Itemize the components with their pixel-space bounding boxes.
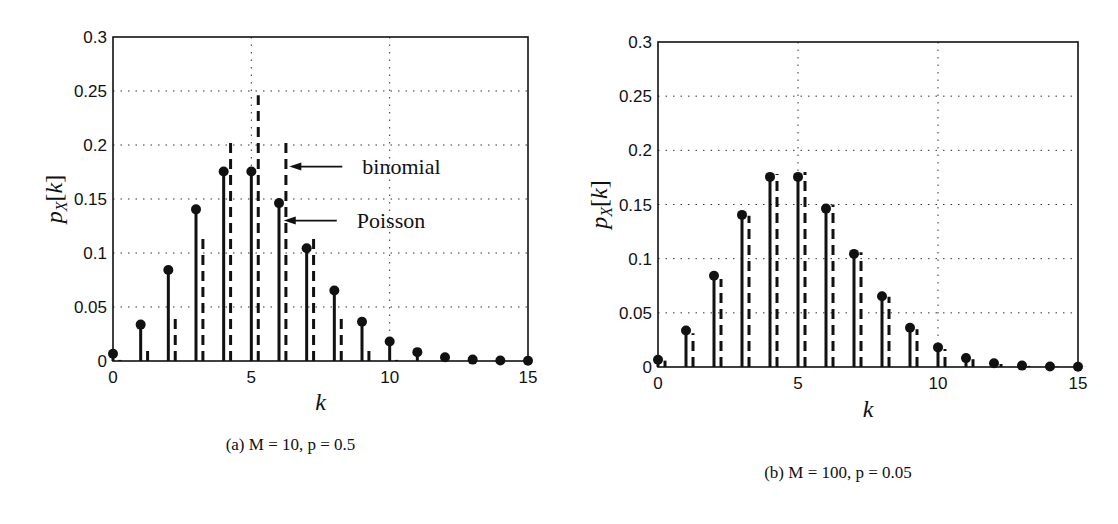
poisson-marker [1073,362,1083,372]
poisson-marker [1017,361,1027,371]
x-tick-label: 15 [1069,374,1088,393]
annotation-label: binomial [362,154,440,179]
poisson-marker [961,353,971,363]
figure-caption: (a) M = 10, p = 0.5 [226,435,356,454]
poisson-marker [765,172,775,182]
poisson-marker [523,356,533,366]
poisson-marker [653,355,663,365]
poisson-marker [357,317,367,327]
poisson-marker [709,271,719,281]
chart-panel-b: 00.050.10.150.20.250.3051015kpX[k](b) M … [586,33,1087,482]
y-tick-label: 0.2 [83,136,107,155]
poisson-marker [385,336,395,346]
poisson-marker [737,210,747,220]
x-tick-label: 10 [380,368,399,387]
poisson-marker [905,323,915,333]
poisson-marker [1045,361,1055,371]
poisson-marker [246,166,256,176]
poisson-marker [274,198,284,208]
y-tick-label: 0.1 [83,244,107,263]
figure: 00.050.10.150.20.250.3051015kpX[k]binomi… [0,0,1118,524]
poisson-marker [821,204,831,214]
poisson-marker [495,355,505,365]
poisson-marker [849,249,859,259]
poisson-marker [191,204,201,214]
figure-caption: (b) M = 100, p = 0.05 [764,463,912,482]
x-tick-label: 10 [929,374,948,393]
poisson-marker [136,320,146,330]
y-tick-label: 0.05 [619,304,652,323]
x-axis-label: k [863,396,874,422]
x-tick-label: 15 [519,368,538,387]
y-tick-label: 0.15 [619,196,652,215]
arrowhead-icon [289,163,301,171]
poisson-marker [468,355,478,365]
y-tick-label: 0.3 [83,28,107,47]
y-tick-label: 0.1 [628,250,652,269]
poisson-marker [877,291,887,301]
poisson-marker [793,172,803,182]
y-tick-label: 0.05 [74,298,107,317]
poisson-marker [163,265,173,275]
poisson-marker [933,342,943,352]
poisson-marker [108,349,118,359]
poisson-marker [440,352,450,362]
x-tick-label: 0 [108,368,117,387]
y-tick-label: 0.25 [619,87,652,106]
x-axis-label: k [315,389,326,415]
x-tick-label: 5 [793,374,802,393]
y-tick-label: 0 [643,358,652,377]
poisson-marker [219,166,229,176]
poisson-marker [302,243,312,253]
poisson-marker [989,358,999,368]
poisson-marker [329,285,339,295]
y-tick-label: 0 [98,352,107,371]
y-tick-label: 0.25 [74,82,107,101]
y-tick-label: 0.2 [628,141,652,160]
y-tick-label: 0.3 [628,33,652,52]
y-axis-label: pX[k] [41,175,70,225]
poisson-marker [681,325,691,335]
x-tick-label: 0 [653,374,662,393]
y-tick-label: 0.15 [74,190,107,209]
poisson-marker [412,347,422,357]
x-tick-label: 5 [247,368,256,387]
annotation-label: Poisson [357,208,425,233]
chart-panel-a: 00.050.10.150.20.250.3051015kpX[k]binomi… [41,28,537,454]
y-axis-label: pX[k] [586,180,615,230]
